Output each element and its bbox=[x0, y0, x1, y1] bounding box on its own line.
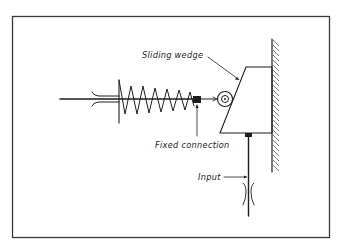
fixed-wall bbox=[272, 39, 279, 172]
fixed-connection-label: Fixed connection bbox=[155, 140, 230, 150]
rod-guide-bushing bbox=[92, 80, 119, 123]
compression-spring bbox=[119, 80, 194, 114]
roller bbox=[218, 92, 233, 107]
sliding-wedge-leader bbox=[208, 57, 240, 80]
sliding-wedge-label: Sliding wedge bbox=[142, 50, 203, 60]
fixed-connection-block bbox=[193, 96, 201, 103]
input-leader bbox=[224, 176, 248, 179]
fixed-connection-leader bbox=[196, 104, 199, 136]
diagram-canvas: Fixed connection Sliding wedge bbox=[0, 0, 338, 244]
input-label: Input bbox=[198, 172, 221, 182]
